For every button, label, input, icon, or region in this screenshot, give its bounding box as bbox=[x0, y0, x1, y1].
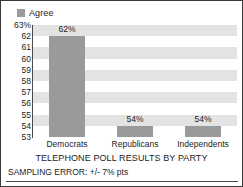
bar-value-republicans: 54% bbox=[117, 115, 153, 124]
bar-democrats bbox=[49, 36, 85, 137]
y-axis-tick-57: 57 bbox=[22, 88, 31, 97]
category-label-democrats: Democrats bbox=[33, 140, 101, 149]
y-axis-tick-56: 56 bbox=[22, 99, 31, 108]
sampling-error-note: SAMPLING ERROR: +/- 7% pts bbox=[8, 168, 128, 177]
y-axis-tick-labels: 63%62616059585756555453 bbox=[9, 25, 32, 139]
y-axis-tick-54: 54 bbox=[22, 122, 31, 131]
y-axis-tick-62: 62 bbox=[22, 32, 31, 41]
legend-label-agree: Agree bbox=[29, 9, 54, 18]
y-axis-tick-53: 53 bbox=[22, 133, 31, 142]
y-axis-tick-55: 55 bbox=[22, 111, 31, 120]
y-axis-tick-58: 58 bbox=[22, 77, 31, 86]
chart-legend: Agree bbox=[17, 7, 54, 19]
x-axis-category-labels: DemocratsRepublicansIndependents bbox=[33, 140, 237, 151]
bar-series-agree: 62%54%54% bbox=[33, 25, 237, 137]
y-axis-tick-61: 61 bbox=[22, 43, 31, 52]
plot-area: 62%54%54% bbox=[33, 25, 237, 137]
plot-region: 63%62616059585756555453 62%54%54% bbox=[9, 25, 237, 139]
bar-value-independents: 54% bbox=[185, 115, 221, 124]
chart-title: TELEPHONE POLL RESULTS BY PARTY bbox=[1, 153, 242, 163]
y-axis-tick-60: 60 bbox=[22, 55, 31, 64]
y-axis-tick-59: 59 bbox=[22, 66, 31, 75]
bar-independents bbox=[185, 126, 221, 137]
footer-divider bbox=[6, 181, 238, 182]
legend-swatch-agree-icon bbox=[17, 9, 25, 17]
y-axis-tick-63: 63% bbox=[14, 21, 31, 30]
category-label-republicans: Republicans bbox=[101, 140, 169, 149]
bar-value-democrats: 62% bbox=[49, 25, 85, 34]
category-label-independents: Independents bbox=[169, 140, 237, 149]
bar-republicans bbox=[117, 126, 153, 137]
bar-chart-figure: Agree 63%62616059585756555453 62%54%54% … bbox=[0, 0, 243, 187]
